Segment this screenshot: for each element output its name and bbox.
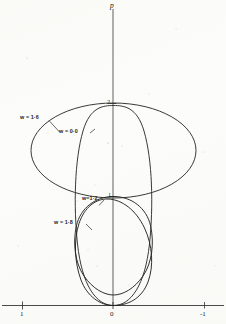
curve-w-1-8: [75, 199, 151, 306]
axis-tick-label-x-0: 0: [110, 311, 114, 318]
scan-speck: [108, 143, 109, 144]
curve-w-0-0: [75, 106, 152, 306]
scan-speck: [95, 185, 96, 186]
figure-plot: p 2 1 1 0 -1 w = 1·6 w = 0·0 w=1·2 w = 1…: [0, 0, 226, 324]
axis-tick-label-x-1: 1: [20, 311, 24, 318]
curve-label-w-1-8: w = 1·8: [54, 220, 73, 225]
vertical-axis-label: p: [110, 2, 114, 10]
scan-speck: [122, 146, 123, 147]
scan-speck: [152, 258, 153, 259]
scan-speck: [150, 185, 151, 186]
curve-label-w-1-2: w=1·2: [82, 196, 98, 201]
leader-line-w-1-6: [49, 121, 60, 133]
leader-line-w-0-0: [90, 129, 95, 133]
scan-speck: [78, 163, 79, 164]
axis-tick-label-y-2: 2: [107, 99, 110, 105]
curve-label-w-1-6: w = 1·6: [20, 115, 39, 120]
plot-canvas: [0, 0, 226, 324]
axis-tick-label-x-minus-1: -1: [200, 311, 206, 318]
leader-line-w-1-8: [86, 224, 92, 230]
scan-speck: [97, 266, 98, 267]
leader-line-w-1-2: [99, 200, 104, 206]
curve-w-1-2: [75, 197, 153, 296]
curve-label-w-0-0: w = 0·0: [59, 129, 78, 134]
curve-w-1-6: [31, 103, 196, 198]
axis-tick-label-y-1: 1: [108, 192, 111, 198]
scan-speck: [88, 250, 89, 251]
